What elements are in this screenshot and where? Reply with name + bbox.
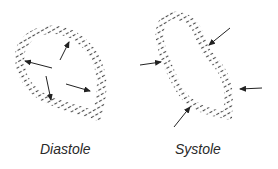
arrow-right-icon (66, 84, 90, 91)
arrow-inward-left-icon (140, 62, 161, 65)
arrow-up-icon (60, 42, 69, 60)
systole-label: Systole (175, 141, 221, 157)
diastole-ventricle (15, 25, 107, 122)
arrow-inward-right-icon (240, 88, 262, 89)
diastole-wall (15, 25, 107, 122)
arrow-inward-topright-icon (209, 28, 230, 45)
arrow-left-icon (25, 61, 52, 68)
systole-ventricle (140, 12, 262, 127)
diastole-label: Diastole (40, 141, 91, 157)
arrow-inward-bottom-icon (174, 107, 190, 127)
systole-wall (156, 12, 233, 120)
